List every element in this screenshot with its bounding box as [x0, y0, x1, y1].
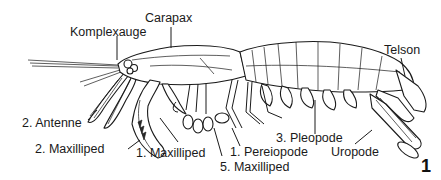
label-komplexauge: Komplexauge	[70, 26, 146, 39]
label-maxilliped-2: 2. Maxilliped	[35, 143, 104, 156]
mantis-shrimp-diagram: Carapax Komplexauge Telson 2. Antenne 2.…	[0, 0, 441, 180]
label-pleopode-3: 3. Pleopode	[276, 132, 343, 145]
label-antenne-2: 2. Antenne	[22, 117, 82, 130]
label-maxilliped-5: 5. Maxilliped	[220, 161, 289, 174]
carapace	[118, 46, 246, 85]
leader-maxilliped1	[160, 118, 178, 142]
leader-pereiopode	[232, 128, 240, 146]
leader-uropode	[355, 130, 372, 144]
label-pereiopode-1: 1. Pereiopode	[230, 146, 308, 159]
figure-number: 1	[421, 156, 431, 177]
label-maxilliped-1: 1. Maxilliped	[136, 147, 205, 160]
label-carapax: Carapax	[145, 12, 192, 25]
leader-maxilliped5	[214, 128, 222, 156]
label-telson: Telson	[384, 44, 420, 57]
label-uropode: Uropode	[331, 146, 379, 159]
antennules	[28, 60, 121, 86]
antenna-2	[88, 72, 136, 128]
pereiopods	[226, 80, 282, 128]
